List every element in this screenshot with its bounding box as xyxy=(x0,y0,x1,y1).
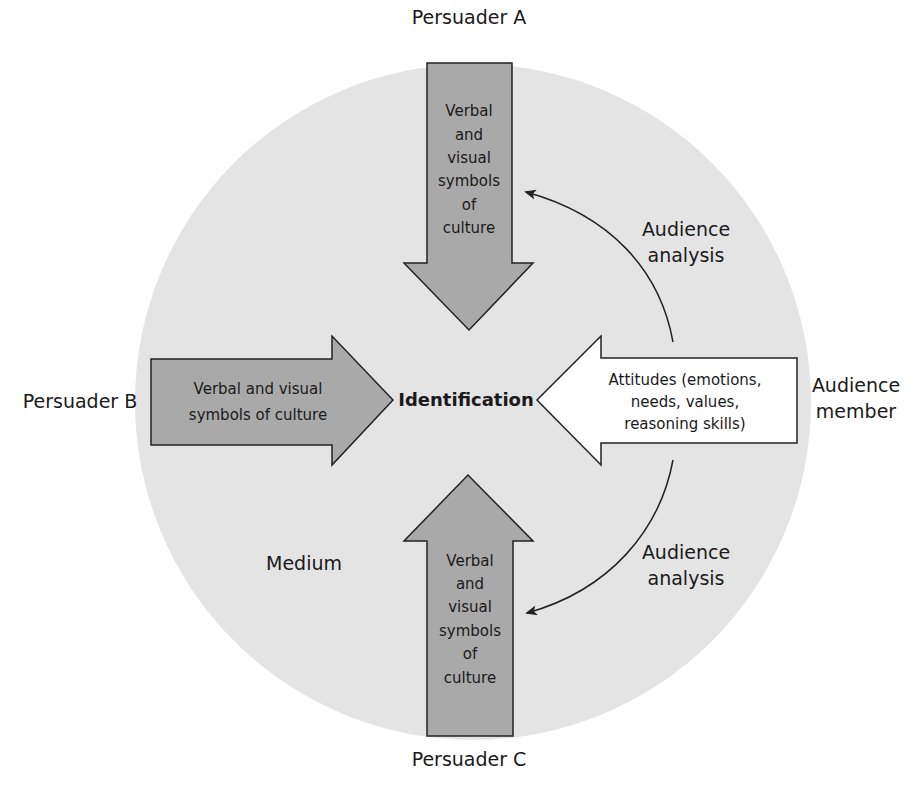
persuader-a-arrow-text-2: visual xyxy=(447,149,491,167)
audience-arrow-text-0: Attitudes (emotions, xyxy=(609,371,762,389)
persuader-c-arrow-text-4: of xyxy=(463,645,478,663)
persuader-b-arrow-text-1: symbols of culture xyxy=(189,406,327,424)
persuader-c-arrow-text-5: culture xyxy=(444,669,496,687)
persuader-b-arrow-text-0: Verbal and visual xyxy=(194,380,323,398)
audience-analysis-lower-label-1: analysis xyxy=(648,567,725,589)
persuader-a-label: Persuader A xyxy=(412,6,526,28)
persuader-c-arrow-text-0: Verbal xyxy=(446,552,493,570)
medium-label: Medium xyxy=(266,552,342,574)
persuader-a-arrow-text-5: culture xyxy=(443,219,495,237)
persuader-a-arrow-text-1: and xyxy=(455,126,483,144)
audience-analysis-upper-label-0: Audience xyxy=(642,218,730,240)
persuasion-diagram: Verbal and visual symbols of culture Ver… xyxy=(0,0,916,795)
persuader-c-arrow-text-3: symbols xyxy=(439,622,501,640)
persuader-b-label: Persuader B xyxy=(23,390,138,412)
audience-member-label-0: Audience xyxy=(812,374,900,396)
audience-arrow-text-1: needs, values, xyxy=(631,393,739,411)
persuader-a-arrow-text-0: Verbal xyxy=(445,102,492,120)
audience-analysis-lower-label-0: Audience xyxy=(642,541,730,563)
audience-analysis-upper-label-1: analysis xyxy=(648,244,725,266)
audience-arrow-text-2: reasoning skills) xyxy=(624,415,745,433)
persuader-c-arrow-text-1: and xyxy=(456,575,484,593)
identification-label: Identification xyxy=(398,389,534,410)
persuader-a-arrow-text-4: of xyxy=(462,196,477,214)
persuader-c-label: Persuader C xyxy=(412,748,527,770)
audience-member-label-1: member xyxy=(816,400,896,422)
persuader-c-arrow-text-2: visual xyxy=(448,598,492,616)
persuader-a-arrow-text-3: symbols xyxy=(438,172,500,190)
